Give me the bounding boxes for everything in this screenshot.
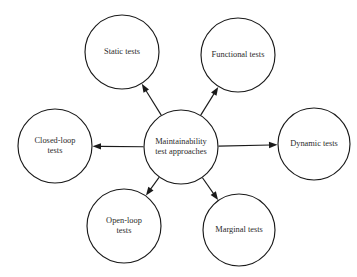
edge-line: [150, 177, 159, 190]
nodes-layer: Maintainabilitytest approachesStatic tes…: [18, 15, 350, 266]
node-label-marginal-tests: Marginal tests: [215, 225, 263, 234]
edge-maintainability-test-approaches-to-static-tests: [142, 84, 161, 115]
node-label-static-tests: Static tests: [104, 47, 140, 56]
node-label-closed-loop-tests: tests: [48, 146, 63, 155]
arrow-head-icon: [211, 191, 218, 200]
edge-maintainability-test-approaches-to-functional-tests: [201, 87, 218, 115]
edge-maintainability-test-approaches-to-marginal-tests: [202, 178, 218, 200]
edge-line: [218, 145, 270, 146]
node-label-dynamic-tests: Dynamic tests: [290, 139, 338, 148]
arrow-head-icon: [142, 84, 149, 93]
diagram-canvas: Maintainabilitytest approachesStatic tes…: [0, 0, 357, 277]
node-label-closed-loop-tests: Closed-loop: [35, 136, 76, 145]
node-closed-loop-tests[interactable]: Closed-looptests: [18, 109, 92, 183]
edge-maintainability-test-approaches-to-open-loop-tests: [146, 177, 159, 195]
node-label-open-loop-tests: tests: [117, 226, 132, 235]
edge-maintainability-test-approaches-to-dynamic-tests: [218, 142, 277, 148]
node-dynamic-tests[interactable]: Dynamic tests: [278, 108, 350, 180]
node-label-maintainability-test-approaches: test approaches: [155, 147, 206, 156]
arrow-head-icon: [146, 187, 154, 196]
edge-line: [202, 178, 214, 195]
node-functional-tests[interactable]: Functional tests: [201, 18, 275, 92]
arrow-head-icon: [92, 143, 101, 149]
node-open-loop-tests[interactable]: Open-looptests: [87, 189, 161, 263]
node-label-open-loop-tests: Open-loop: [106, 216, 142, 225]
node-label-maintainability-test-approaches: Maintainability: [155, 137, 207, 146]
edge-line: [201, 93, 215, 115]
arrow-head-icon: [269, 142, 278, 148]
edge-line: [145, 90, 161, 115]
node-maintainability-test-approaches[interactable]: Maintainabilitytest approaches: [144, 110, 218, 184]
node-label-functional-tests: Functional tests: [212, 50, 265, 59]
node-static-tests[interactable]: Static tests: [85, 15, 159, 89]
edge-maintainability-test-approaches-to-closed-loop-tests: [92, 143, 143, 149]
diagram-root: Maintainabilitytest approachesStatic tes…: [0, 0, 357, 277]
arrow-head-icon: [211, 87, 218, 96]
node-marginal-tests[interactable]: Marginal tests: [203, 194, 275, 266]
